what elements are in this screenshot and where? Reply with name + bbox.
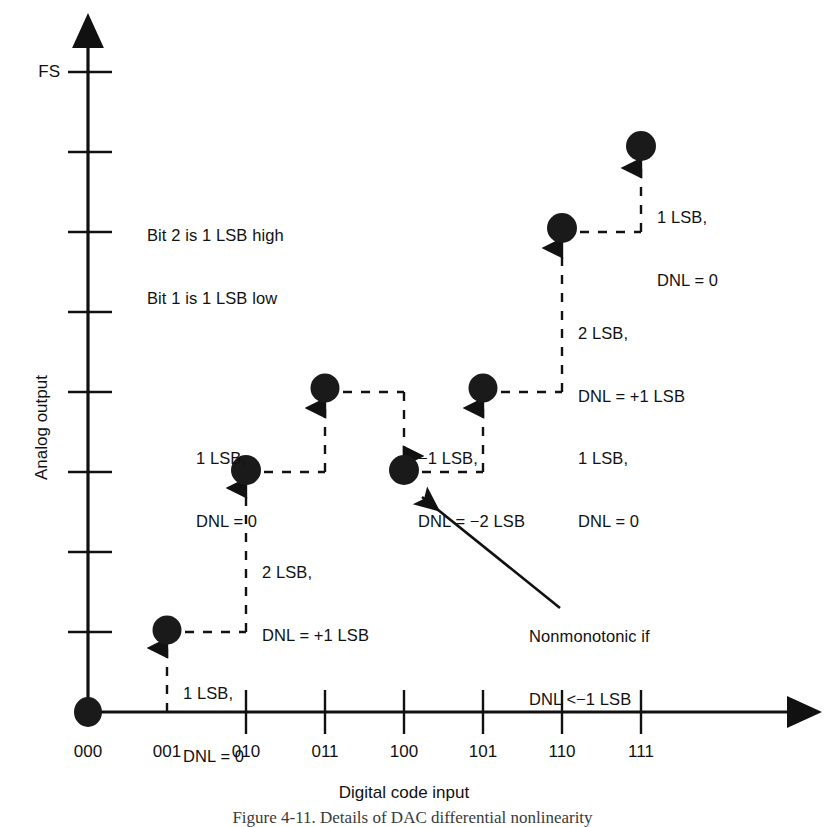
data-point-011 [311, 374, 340, 403]
annotation-bit-note: Bit 2 is 1 LSB high Bit 1 is 1 LSB low [147, 183, 284, 351]
data-point-101 [469, 374, 498, 403]
annotation-step-100-line2: DNL = −2 LSB [418, 511, 525, 532]
annotation-step-100: −1 LSB, DNL = −2 LSB [418, 406, 525, 574]
x-tick-label-101: 101 [469, 742, 497, 762]
figure-caption: Figure 4-11. Details of DAC differential… [0, 808, 825, 827]
annotation-step-110-line2: DNL = +1 LSB [578, 386, 685, 407]
annotation-step-101-line1: 1 LSB, [578, 448, 639, 469]
data-point-100 [389, 455, 419, 485]
fs-axis-label: FS [38, 62, 60, 82]
annotation-step-111-line2: DNL = 0 [657, 270, 718, 291]
y-axis-title: Analog output [32, 375, 52, 480]
annotation-step-010-line2: DNL = +1 LSB [262, 625, 369, 646]
dac-dnl-figure: FS Analog output 000 001 010 011 100 101… [0, 0, 825, 827]
x-tick-label-011: 011 [311, 742, 338, 762]
annotation-step-001-line1: 1 LSB, [183, 683, 244, 704]
annotation-bit-note-line2: Bit 1 is 1 LSB low [147, 288, 284, 309]
annotation-nonmonotonic: Nonmonotonic if DNL <−1 LSB [529, 584, 650, 752]
annotation-nonmonotonic-line1: Nonmonotonic if [529, 626, 650, 647]
annotation-step-001: 1 LSB, DNL = 0 [183, 641, 244, 809]
annotation-nonmonotonic-line2: DNL <−1 LSB [529, 689, 650, 710]
x-tick-label-001: 001 [153, 742, 181, 762]
x-axis-title: Digital code input [339, 783, 469, 803]
annotation-step-111-line1: 1 LSB, [657, 207, 718, 228]
x-tick-label-100: 100 [390, 742, 418, 762]
annotation-step-010-line1: 2 LSB, [262, 562, 369, 583]
annotation-step-011-line2: DNL = 0 [196, 511, 257, 532]
data-point-000 [74, 697, 102, 727]
annotation-bit-note-line1: Bit 2 is 1 LSB high [147, 225, 284, 246]
annotation-step-011-line1: 1 LSB, [196, 448, 257, 469]
y-axis [68, 45, 112, 712]
annotation-step-010: 2 LSB, DNL = +1 LSB [262, 520, 369, 688]
annotation-step-100-line1: −1 LSB, [418, 448, 525, 469]
data-point-110 [547, 213, 577, 243]
annotation-step-011: 1 LSB, DNL = 0 [196, 406, 257, 574]
annotation-step-001-line2: DNL = 0 [183, 746, 244, 767]
x-tick-label-000: 000 [74, 742, 102, 762]
annotation-step-111: 1 LSB, DNL = 0 [657, 165, 718, 333]
data-point-111 [626, 131, 656, 161]
plot-canvas [0, 0, 825, 827]
annotation-step-101-line2: DNL = 0 [578, 511, 639, 532]
data-point-001 [153, 616, 182, 645]
